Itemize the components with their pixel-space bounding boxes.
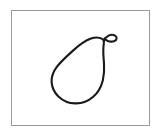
image-canvas: Pear outline drawing: [0, 0, 162, 138]
pear-stem-icon: [104, 35, 117, 42]
pear-body-outline: [52, 38, 105, 104]
pear-drawing: [0, 0, 162, 138]
